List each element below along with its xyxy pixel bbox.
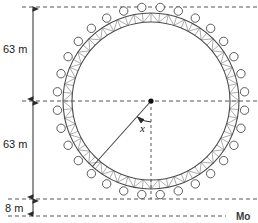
capsule xyxy=(219,156,227,164)
capsule xyxy=(120,7,128,15)
figure-canvas: x 63 m 63 m 8 m Mo xyxy=(0,0,258,223)
capsule xyxy=(237,124,245,132)
capsule xyxy=(120,187,128,195)
axle-center-point xyxy=(148,98,153,103)
radius-line xyxy=(92,101,151,167)
capsule xyxy=(206,169,214,177)
capsule xyxy=(102,14,110,22)
capsule xyxy=(240,88,248,96)
corner-watermark-label: Mo xyxy=(236,211,250,222)
capsule xyxy=(57,124,65,132)
capsule xyxy=(230,52,238,60)
ferris-wheel-diagram: x 63 m 63 m 8 m Mo xyxy=(0,0,258,223)
capsule xyxy=(64,141,72,149)
capsule xyxy=(191,180,199,188)
capsule xyxy=(74,37,82,45)
capsule xyxy=(138,190,146,198)
capsule xyxy=(64,52,72,60)
capsule xyxy=(102,180,110,188)
capsule xyxy=(53,88,61,96)
bottom-half-height-label: 63 m xyxy=(3,138,27,150)
capsule xyxy=(240,106,248,114)
capsule xyxy=(219,37,227,45)
capsule xyxy=(174,187,182,195)
capsule xyxy=(230,141,238,149)
capsule xyxy=(174,7,182,15)
capsule xyxy=(156,3,164,11)
capsule xyxy=(156,190,164,198)
ground-clearance-label: 8 m xyxy=(5,202,23,214)
capsule xyxy=(87,169,95,177)
capsule xyxy=(237,70,245,78)
angle-label: x xyxy=(139,122,145,134)
capsule xyxy=(87,24,95,32)
capsule xyxy=(57,70,65,78)
capsule xyxy=(206,24,214,32)
top-half-height-label: 63 m xyxy=(3,43,27,55)
capsule xyxy=(191,14,199,22)
capsule xyxy=(138,3,146,11)
capsule xyxy=(53,106,61,114)
capsule xyxy=(74,156,82,164)
